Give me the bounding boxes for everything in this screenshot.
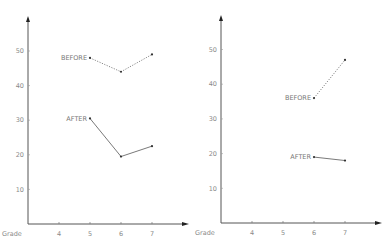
y-tick-label: 10 — [16, 186, 24, 194]
data-point — [151, 53, 153, 55]
series-line-before — [90, 54, 152, 71]
chart-left: 10203040504567GradeBEFOREAFTER — [0, 0, 196, 248]
y-tick-label: 40 — [16, 82, 24, 90]
data-point — [313, 156, 315, 158]
y-tick-label: 20 — [209, 150, 217, 158]
x-axis-label: Grade — [2, 230, 22, 238]
x-tick-label: 6 — [119, 230, 123, 238]
data-point — [313, 97, 315, 99]
x-tick-label: 4 — [250, 229, 254, 237]
line-chart-right: 10203040504567GradeBEFOREAFTER — [193, 0, 392, 248]
series-line-after — [314, 157, 345, 160]
y-tick-label: 50 — [16, 47, 24, 55]
x-axis-arrow-icon — [182, 222, 189, 226]
chart-right: 10203040504567GradeBEFOREAFTER — [193, 0, 389, 248]
data-point — [120, 155, 122, 157]
data-point — [151, 145, 153, 147]
y-tick-label: 40 — [209, 80, 217, 88]
data-point — [120, 71, 122, 73]
y-tick-label: 10 — [209, 185, 217, 193]
line-chart-left: 10203040504567GradeBEFOREAFTER — [0, 0, 196, 248]
series-label-before: BEFORE — [285, 94, 311, 102]
x-axis-arrow-icon — [375, 221, 382, 225]
x-tick-label: 7 — [343, 229, 347, 237]
series-line-after — [90, 118, 152, 156]
x-tick-label: 4 — [57, 230, 61, 238]
y-axis-arrow-icon — [26, 16, 30, 22]
x-axis-label: Grade — [195, 229, 215, 237]
data-point — [344, 59, 346, 61]
series-label-after: AFTER — [66, 115, 87, 123]
series-line-before — [314, 60, 345, 98]
data-point — [89, 57, 91, 59]
series-label-before: BEFORE — [61, 54, 87, 62]
data-point — [89, 117, 91, 119]
y-tick-label: 20 — [16, 151, 24, 159]
y-axis-arrow-icon — [219, 15, 223, 21]
y-tick-label: 50 — [209, 46, 217, 54]
x-tick-label: 7 — [150, 230, 154, 238]
y-tick-label: 30 — [16, 116, 24, 124]
y-tick-label: 30 — [209, 115, 217, 123]
x-tick-label: 5 — [88, 230, 92, 238]
x-tick-label: 6 — [312, 229, 316, 237]
series-label-after: AFTER — [290, 153, 311, 161]
x-tick-label: 5 — [281, 229, 285, 237]
data-point — [344, 159, 346, 161]
